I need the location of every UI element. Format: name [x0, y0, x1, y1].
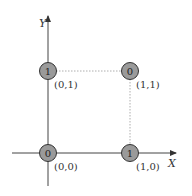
node-0-0: 0 (0,0): [40, 145, 78, 173]
node-coord: (0,0): [54, 161, 78, 172]
node-1-1: 0 (1,1): [122, 63, 160, 91]
y-axis-label: Y: [39, 17, 48, 30]
node-1-0: 1 (1,0): [122, 145, 160, 173]
node-coord: (0,1): [54, 79, 78, 90]
node-coord: (1,0): [136, 161, 160, 172]
x-axis-label: X: [167, 157, 177, 170]
xor-diagram: Y X 0 (0,0) 1 (0,1) 0 (1,1) 1 (1,0): [0, 0, 192, 196]
node-coord: (1,1): [136, 79, 160, 90]
node-0-1: 1 (0,1): [40, 63, 78, 91]
node-value: 1: [127, 148, 133, 159]
node-value: 0: [127, 66, 133, 77]
node-value: 1: [45, 66, 51, 77]
node-value: 0: [45, 148, 51, 159]
